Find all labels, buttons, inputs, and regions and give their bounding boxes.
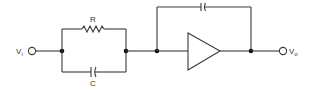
output-label-sub: o xyxy=(295,51,298,57)
resistor-r xyxy=(62,26,126,32)
input-terminal xyxy=(28,47,35,54)
output-terminal xyxy=(279,47,286,54)
input-label-sub: i xyxy=(22,51,23,57)
feedback-capacitor xyxy=(157,3,251,51)
capacitor-label: C xyxy=(90,79,96,88)
input-label: V i xyxy=(16,47,23,57)
resistor-zigzag-icon xyxy=(82,26,104,32)
amplifier-triangle-icon xyxy=(188,33,220,70)
capacitor-c xyxy=(62,67,126,77)
circuit-diagram: V i R C xyxy=(0,0,312,90)
output-label: V o xyxy=(289,47,298,57)
resistor-label: R xyxy=(90,15,96,24)
